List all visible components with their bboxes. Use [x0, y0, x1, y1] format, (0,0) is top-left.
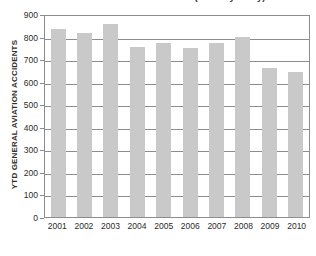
y-axis-tick-label: 300: [8, 146, 38, 155]
bar: [51, 29, 66, 217]
y-axis-tick-mark: [40, 218, 44, 219]
bar: [235, 37, 250, 217]
x-axis-tick-label: 2003: [97, 221, 123, 231]
y-axis-tick-mark: [40, 128, 44, 129]
y-axis-tick-mark: [40, 60, 44, 61]
plot-area: [44, 15, 310, 218]
x-axis-tick-label: 2006: [177, 221, 203, 231]
bar: [288, 72, 303, 217]
x-axis-tick-label: 2004: [124, 221, 150, 231]
y-axis-tick-mark: [40, 83, 44, 84]
x-axis-tick-label: 2008: [230, 221, 256, 231]
y-axis-tick-label: 400: [8, 124, 38, 133]
bar: [103, 24, 118, 217]
y-axis-tick-mark: [40, 38, 44, 39]
x-axis-ticks: 2001200220032004200520062007200820092010: [44, 221, 310, 235]
chart-figure: US General Aviation Accidents (January -…: [0, 0, 316, 256]
x-axis-tick-label: 2005: [151, 221, 177, 231]
y-axis-tick-mark: [40, 195, 44, 196]
chart-title: US General Aviation Accidents (January -…: [0, 0, 316, 3]
x-axis-tick-label: 2009: [257, 221, 283, 231]
bar: [262, 68, 277, 217]
y-axis-tick-label: 0: [8, 214, 38, 223]
bar: [156, 43, 171, 217]
bar-series: [45, 16, 309, 217]
bar: [183, 48, 198, 217]
x-axis-tick-label: 2001: [44, 221, 70, 231]
bar: [130, 47, 145, 217]
x-axis-tick-label: 2002: [71, 221, 97, 231]
y-axis-tick-label: 500: [8, 101, 38, 110]
y-axis-tick-label: 900: [8, 11, 38, 20]
y-axis-tick-mark: [40, 15, 44, 16]
bar: [209, 43, 224, 217]
y-axis-tick-mark: [40, 173, 44, 174]
bar: [77, 33, 92, 217]
x-axis-tick-label: 2010: [284, 221, 310, 231]
y-axis-tick-mark: [40, 150, 44, 151]
y-axis-tick-label: 700: [8, 56, 38, 65]
y-axis-tick-label: 200: [8, 169, 38, 178]
y-axis-tick-label: 800: [8, 33, 38, 42]
x-axis-tick-label: 2007: [204, 221, 230, 231]
y-axis-tick-mark: [40, 105, 44, 106]
y-axis-tick-label: 600: [8, 78, 38, 87]
y-axis-tick-label: 100: [8, 191, 38, 200]
